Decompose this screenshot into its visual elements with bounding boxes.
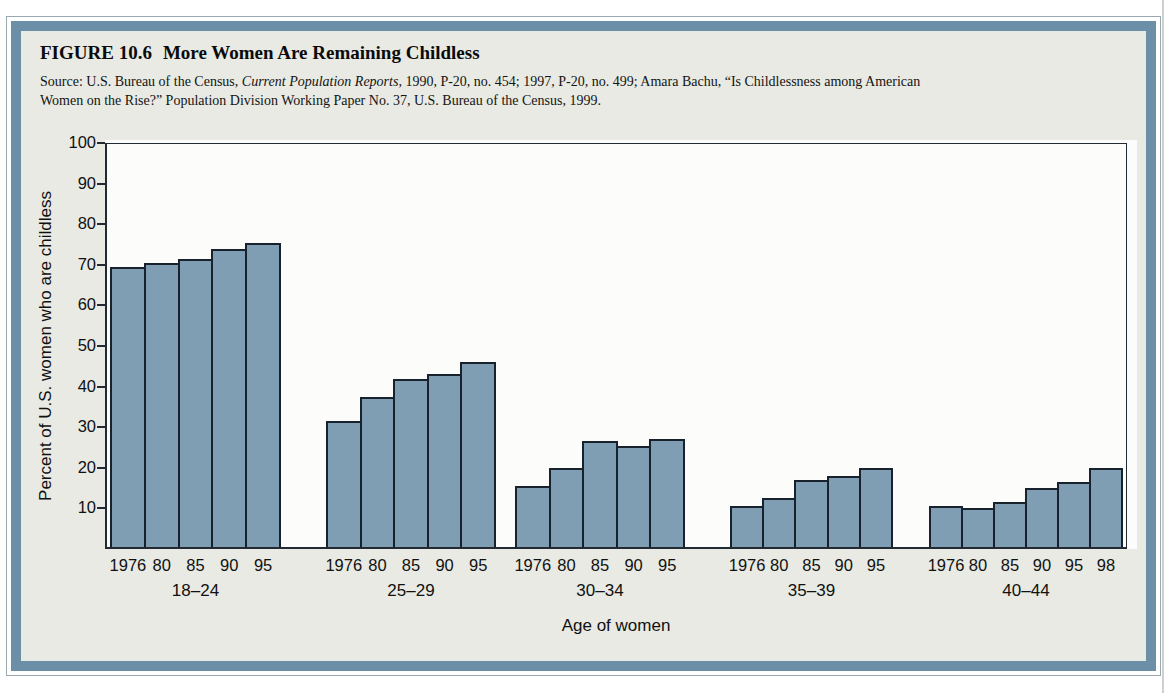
bar-35–39-80 (762, 498, 796, 547)
bar-18–24-90 (211, 249, 247, 547)
plot-area (105, 143, 1127, 549)
figure-heading: FIGURE 10.6More Women Are Remaining Chil… (40, 42, 480, 64)
source-text-italic: Current Population Reports, (242, 74, 402, 89)
bar-18–24-1976 (110, 267, 146, 547)
x-tick-label-25–29-95: 95 (455, 556, 501, 575)
bar-18–24-85 (178, 259, 214, 547)
bar-40–44-1976 (929, 506, 963, 547)
group-label-25–29: 25–29 (351, 581, 471, 601)
figure-number: FIGURE 10.6 (40, 42, 152, 63)
y-tick-mark (97, 467, 105, 469)
x-tick-label-18–24-95: 95 (240, 556, 286, 575)
y-tick-label-80: 80 (46, 214, 96, 233)
figure-title: More Women Are Remaining Childless (163, 42, 480, 63)
bar-30–34-1976 (515, 486, 551, 547)
source-text-2: 1990, P-20, no. 454; 1997, P-20, no. 499… (402, 74, 920, 89)
y-tick-mark (97, 386, 105, 388)
bar-35–39-95 (859, 468, 893, 547)
bar-25–29-90 (427, 374, 463, 547)
bar-40–44-95 (1057, 482, 1091, 547)
bar-25–29-95 (460, 362, 496, 547)
source-text-1: Source: U.S. Bureau of the Census, (40, 74, 242, 89)
bar-30–34-85 (582, 441, 618, 547)
y-tick-mark (97, 345, 105, 347)
bar-30–34-90 (616, 446, 652, 547)
y-tick-mark (97, 223, 105, 225)
y-tick-mark (97, 264, 105, 266)
bar-40–44-80 (961, 508, 995, 547)
y-tick-label-60: 60 (46, 295, 96, 314)
x-tick-label-40–44-98: 98 (1083, 556, 1129, 575)
bar-30–34-95 (649, 439, 685, 547)
bar-18–24-95 (245, 243, 281, 547)
bar-25–29-1976 (326, 421, 362, 547)
bar-25–29-85 (393, 379, 429, 547)
bar-40–44-98 (1089, 468, 1123, 547)
bar-35–39-85 (794, 480, 828, 547)
source-note: Source: U.S. Bureau of the Census, Curre… (40, 73, 1142, 110)
y-tick-mark (97, 507, 105, 509)
bar-40–44-90 (1025, 488, 1059, 547)
bar-35–39-90 (827, 476, 861, 547)
y-tick-label-10: 10 (46, 498, 96, 517)
y-tick-mark (97, 304, 105, 306)
group-label-18–24: 18–24 (136, 581, 256, 601)
y-tick-label-90: 90 (46, 174, 96, 193)
x-tick-label-35–39-95: 95 (853, 556, 899, 575)
group-label-30–34: 30–34 (540, 581, 660, 601)
bar-25–29-80 (360, 397, 396, 547)
y-tick-mark (97, 142, 105, 144)
bar-30–34-80 (549, 468, 585, 547)
x-axis-title: Age of women (105, 616, 1127, 636)
y-tick-mark (97, 183, 105, 185)
source-text-3: Women on the Rise?” Population Division … (40, 93, 601, 108)
bar-35–39-1976 (730, 506, 764, 547)
page-edge-line (1162, 0, 1164, 693)
y-tick-label-70: 70 (46, 255, 96, 274)
y-tick-label-100: 100 (46, 133, 96, 152)
y-tick-label-20: 20 (46, 458, 96, 477)
y-tick-label-40: 40 (46, 377, 96, 396)
y-tick-mark (97, 426, 105, 428)
bar-40–44-85 (993, 502, 1027, 547)
group-label-35–39: 35–39 (752, 581, 872, 601)
group-label-40–44: 40–44 (966, 581, 1086, 601)
x-tick-label-30–34-95: 95 (644, 556, 690, 575)
figure-frame: FIGURE 10.6More Women Are Remaining Chil… (11, 21, 1156, 671)
y-tick-label-30: 30 (46, 417, 96, 436)
bar-18–24-80 (144, 263, 180, 547)
y-tick-label-50: 50 (46, 336, 96, 355)
